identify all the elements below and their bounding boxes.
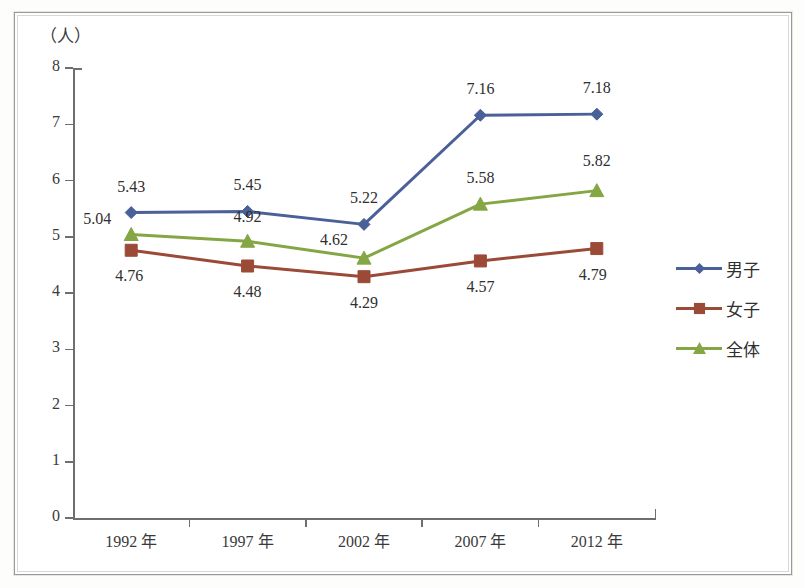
data-point-marker — [125, 244, 137, 256]
data-point-marker — [591, 243, 603, 255]
legend-label: 全体 — [726, 336, 760, 361]
series-diamond — [125, 108, 603, 230]
data-point-label: 5.58 — [466, 169, 494, 187]
legend-marker-icon — [676, 301, 722, 315]
data-point-label: 4.76 — [115, 267, 143, 285]
legend-item-square[interactable]: 女子 — [676, 288, 786, 328]
data-point-label: 4.57 — [466, 278, 494, 296]
data-point-label: 4.29 — [350, 294, 378, 312]
legend-item-diamond[interactable]: 男子 — [676, 248, 786, 288]
data-point-label: 4.48 — [234, 283, 262, 301]
data-point-label: 5.22 — [350, 189, 378, 207]
data-point-marker — [125, 207, 137, 219]
square-icon — [693, 302, 706, 315]
chart-legend: 男子女子全体 — [676, 248, 786, 368]
line-chart: （人） 876543210 1992 年1997 年2002 年2007 年20… — [0, 0, 805, 588]
chart-page: （人） 876543210 1992 年1997 年2002 年2007 年20… — [0, 0, 805, 588]
legend-marker-icon — [676, 261, 722, 275]
legend-marker-icon — [676, 341, 722, 355]
legend-label: 女子 — [726, 296, 760, 321]
diamond-icon — [693, 262, 706, 275]
data-point-label: 5.82 — [583, 152, 611, 170]
data-point-label: 4.62 — [320, 231, 348, 249]
data-point-label: 7.18 — [583, 79, 611, 97]
legend-label: 男子 — [726, 256, 760, 281]
data-point-label: 7.16 — [466, 80, 494, 98]
data-point-label: 5.04 — [83, 210, 111, 228]
data-point-marker — [474, 255, 486, 267]
data-point-label: 5.45 — [234, 176, 262, 194]
legend-item-triangle[interactable]: 全体 — [676, 328, 786, 368]
data-point-label: 4.79 — [579, 266, 607, 284]
triangle-icon — [693, 342, 706, 355]
data-point-label: 5.43 — [117, 178, 145, 196]
data-point-marker — [358, 271, 370, 283]
data-point-marker — [242, 260, 254, 272]
series-line — [131, 114, 597, 224]
data-point-label: 4.92 — [234, 208, 262, 226]
data-point-marker — [591, 108, 603, 120]
